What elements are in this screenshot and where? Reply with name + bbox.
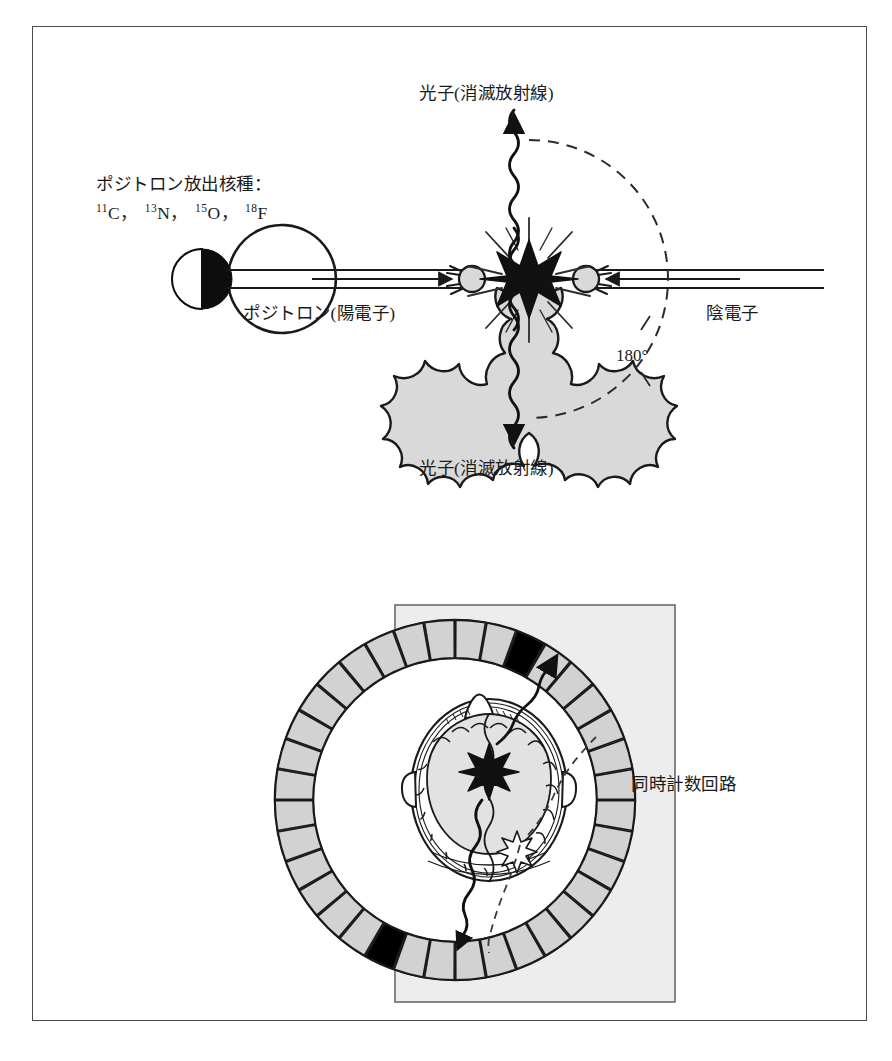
angle-tick-upper [641,316,650,330]
brain-annihilation-star-icon [459,744,519,800]
electron-track-arrow [596,270,824,288]
source-label-line1: ポジトロン放出核種： [96,172,271,197]
positron-label: ポジトロン(陽電子) [243,301,396,326]
nuclide-o15: 15O [195,203,221,223]
nuclide-c11: 11C [96,203,120,223]
angle-label: 180° [616,346,648,366]
nuclide-f18: 18F [245,203,268,223]
coincidence-circuit-label: 同時計数回路 [631,772,736,797]
electron-label: 陰電子 [706,301,759,326]
nuclide-sep-3: ， [221,203,239,223]
nuclide-sep-1: ， [120,203,138,223]
diagram-canvas [0,0,892,1061]
nuclide-n13: 13N [145,203,171,223]
nuclide-sep-2: ， [170,203,188,223]
source-label-nuclides: 11C，13N，15O，18F [96,199,268,224]
figure-root: ポジトロン放出核種： 11C，13N，15O，18F 光子(消滅放射線) 光子(… [0,0,892,1061]
photon-bottom-label: 光子(消滅放射線) [419,456,554,481]
photon-top-label: 光子(消滅放射線) [419,81,554,106]
